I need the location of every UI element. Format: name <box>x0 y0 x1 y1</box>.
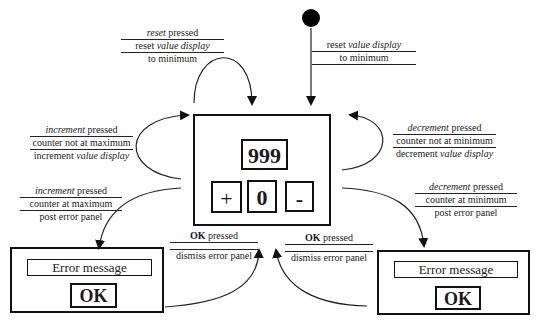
ok-button-right[interactable]: OK <box>435 286 481 310</box>
decrement-error-transition-label: decrement pressed counter at minimum pos… <box>415 181 517 219</box>
initial-state-dot <box>302 9 320 27</box>
increment-loop-arrow <box>136 115 188 179</box>
decrement-button[interactable]: - <box>285 181 314 212</box>
error-message-left: Error message <box>27 259 152 276</box>
ok-button-left[interactable]: OK <box>70 283 117 308</box>
dismiss-left-transition-label: OK pressed dismiss error panel <box>170 230 258 262</box>
increment-transition-label: increment pressed counter not at maximum… <box>30 124 133 162</box>
initial-transition-label: reset value display to minimum <box>312 39 416 65</box>
error-message-right: Error message <box>394 261 518 278</box>
reset-transition-label: reset pressed reset value display to min… <box>121 27 224 65</box>
value-display: 999 <box>241 139 288 170</box>
decrement-loop-arrow <box>342 115 383 170</box>
decrement-transition-label: decrement pressed counter not at minimum… <box>393 122 496 160</box>
reset-button[interactable]: 0 <box>247 180 277 213</box>
state-diagram: 999 + 0 - Error message OK Error message… <box>0 0 538 327</box>
increment-button[interactable]: + <box>211 181 242 213</box>
dismiss-right-transition-label: OK pressed dismiss error panel <box>285 232 373 264</box>
increment-error-transition-label: increment pressed counter at maximum pos… <box>20 185 122 223</box>
